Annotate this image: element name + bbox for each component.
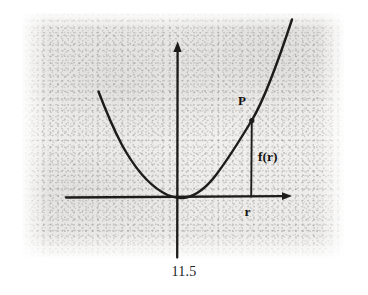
f-of-r-segment bbox=[251, 122, 252, 197]
figure-page: P f(r) r 11.5 bbox=[0, 0, 368, 295]
function-curve bbox=[99, 20, 293, 198]
point-p-label: P bbox=[238, 93, 246, 108]
r-axis-label: r bbox=[245, 204, 251, 219]
y-axis-arrowhead bbox=[173, 42, 181, 53]
parabola-curve bbox=[99, 20, 293, 198]
x-axis-arrowhead bbox=[282, 192, 292, 200]
graph-figure: P f(r) r bbox=[0, 0, 368, 295]
figure-caption: 11.5 bbox=[0, 264, 368, 280]
ordinate-segment bbox=[251, 122, 252, 197]
y-axis bbox=[173, 42, 181, 258]
f-of-r-label: f(r) bbox=[258, 149, 277, 164]
point-p-marker bbox=[249, 118, 254, 123]
